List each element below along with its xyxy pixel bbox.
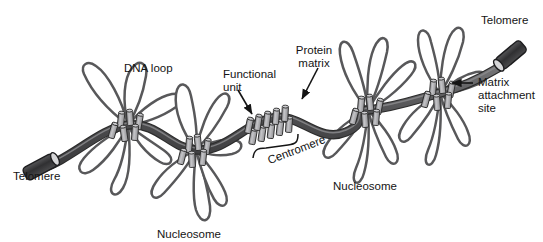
- chromosome-illustration: [0, 0, 543, 242]
- label-matrix-attachment-site: Matrixattachmentsite: [478, 76, 535, 115]
- label-telomere-right: Telomere: [481, 14, 528, 27]
- label-protein-matrix-line2: matrix: [298, 57, 329, 69]
- label-protein-matrix: Proteinmatrix: [281, 44, 347, 70]
- diagram-canvas: Telomere DNA loop Functionalunit Protein…: [0, 0, 543, 242]
- centromere-cylinder-row: [244, 105, 292, 145]
- label-mas-line3: site: [478, 102, 496, 114]
- protein-matrix-arrow: [302, 68, 318, 99]
- label-mas-line1: Matrix: [478, 76, 509, 88]
- label-functional-unit-line2: unit: [223, 81, 242, 93]
- label-protein-matrix-line1: Protein: [296, 44, 332, 56]
- label-functional-unit: Functionalunit: [223, 68, 276, 94]
- label-nucleosome-right: Nucleosome: [333, 180, 397, 193]
- label-nucleosome-lower: Nucleosome: [157, 228, 221, 241]
- label-functional-unit-line1: Functional: [223, 68, 276, 80]
- label-telomere-left: Telomere: [13, 170, 60, 183]
- label-dna-loop: DNA loop: [124, 62, 173, 75]
- label-mas-line2: attachment: [478, 89, 535, 101]
- telomere-cap-right: [492, 39, 528, 72]
